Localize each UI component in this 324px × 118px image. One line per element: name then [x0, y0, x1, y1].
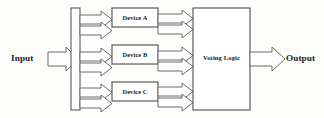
bus-to-device-c-arrow-upper [80, 84, 112, 101]
device-b-to-voting-arrow-upper [158, 47, 193, 64]
voting-logic-label: Voting Logic [193, 55, 250, 62]
diagram-canvas [0, 0, 324, 118]
bus-to-device-a-arrow-upper [80, 11, 112, 28]
output-arrow [250, 47, 285, 71]
bus-to-device-b-arrow-upper [80, 48, 112, 65]
device-a-label: Device A [112, 15, 158, 21]
output-label: Output [286, 54, 315, 63]
input-label: Input [11, 54, 33, 63]
device-b-label: Device B [112, 52, 158, 58]
device-b-to-voting-arrow-lower [158, 58, 193, 75]
device-a-to-voting-arrow-lower [158, 21, 193, 38]
device-c-to-voting-arrow-lower [158, 94, 193, 111]
bus-to-device-b-arrow-lower [80, 59, 112, 76]
bus-to-device-a-arrow-lower [80, 22, 112, 39]
input-distribution-bus [71, 8, 80, 110]
device-c-label: Device C [112, 89, 158, 95]
device-c-to-voting-arrow-upper [158, 83, 193, 100]
device-a-to-voting-arrow-upper [158, 10, 193, 27]
bus-to-device-c-arrow-lower [80, 95, 112, 112]
tmr-block-diagram: Input Device A Device B Device C Voting … [0, 0, 324, 118]
